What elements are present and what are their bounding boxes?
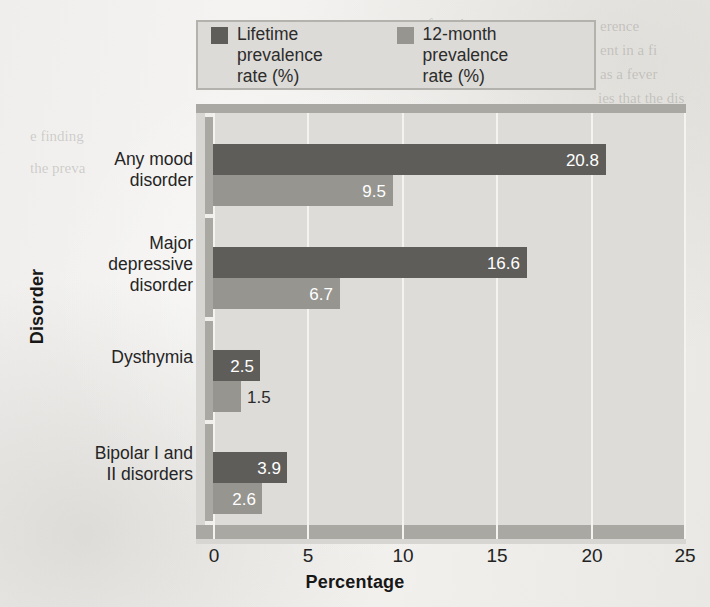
x-axis-tick-15 — [496, 525, 498, 539]
bar-12month-bipolar[interactable]: 2.6 — [213, 483, 262, 514]
bar-lifetime-any-mood-disorder[interactable]: 20.8 — [213, 144, 606, 175]
plot-area: 20.8 9.5 16.6 6.7 2.5 1.5 3.9 2.6 — [196, 104, 686, 544]
bar-lifetime-dysthymia[interactable]: 2.5 — [213, 350, 260, 381]
bar-12month-dysthymia[interactable]: 1.5 — [213, 381, 241, 412]
x-tick-label-5: 5 — [303, 545, 314, 567]
x-axis-band — [196, 525, 686, 539]
category-label-any-mood-disorder: Any mood disorder — [13, 149, 193, 191]
bar-value-lifetime-major-depressive-disorder: 16.6 — [487, 255, 520, 272]
bar-lifetime-major-depressive-disorder[interactable]: 16.6 — [213, 247, 527, 278]
x-axis-tick-20 — [591, 525, 593, 539]
x-axis-tick-5 — [307, 525, 309, 539]
bar-value-lifetime-dysthymia: 2.5 — [230, 358, 254, 375]
bar-lifetime-bipolar[interactable]: 3.9 — [213, 452, 287, 483]
x-tick-label-25: 25 — [674, 545, 695, 567]
bar-value-lifetime-any-mood-disorder: 20.8 — [566, 152, 599, 169]
legend-label-12month: 12-month prevalence rate (%) — [423, 24, 574, 87]
bar-12month-any-mood-disorder[interactable]: 9.5 — [213, 175, 393, 206]
bar-value-12month-any-mood-disorder: 9.5 — [362, 183, 386, 200]
bar-value-12month-dysthymia: 1.5 — [247, 389, 271, 406]
bar-12month-major-depressive-disorder[interactable]: 6.7 — [213, 278, 340, 309]
x-tick-label-20: 20 — [581, 545, 602, 567]
bar-value-12month-major-depressive-disorder: 6.7 — [309, 286, 333, 303]
x-axis-tick-10 — [402, 525, 404, 539]
legend-swatch-lifetime — [211, 27, 228, 44]
gridline-25 — [684, 113, 686, 525]
x-tick-label-10: 10 — [392, 545, 413, 567]
bar-value-lifetime-bipolar: 3.9 — [257, 460, 281, 477]
plot-top-border — [196, 104, 686, 113]
x-axis-tick-0 — [213, 525, 215, 539]
x-tick-label-0: 0 — [209, 545, 220, 567]
x-tick-label-15: 15 — [486, 545, 507, 567]
legend-entry-12month: 12-month prevalence rate (%) — [397, 24, 574, 87]
legend-label-lifetime: Lifetime prevalence rate (%) — [237, 24, 377, 87]
chart-legend: Lifetime prevalence rate (%) 12-month pr… — [196, 20, 596, 90]
y-axis-title: Disorder — [27, 237, 48, 377]
x-axis-title: Percentage — [0, 572, 710, 593]
legend-swatch-12month — [397, 27, 414, 44]
bar-value-12month-bipolar: 2.6 — [232, 491, 256, 508]
legend-entry-lifetime: Lifetime prevalence rate (%) — [211, 24, 377, 87]
plot-inner-region: 20.8 9.5 16.6 6.7 2.5 1.5 3.9 2.6 — [213, 113, 686, 525]
x-axis-tick-25 — [684, 525, 686, 539]
category-label-bipolar: Bipolar I and II disorders — [13, 443, 193, 485]
